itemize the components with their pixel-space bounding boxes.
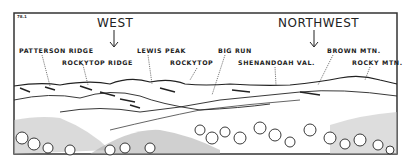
label-patterson-ridge: PATTERSON RIDGE bbox=[19, 47, 94, 54]
direction-northwest: NORTHWEST bbox=[278, 16, 359, 30]
label-brown-mtn: BROWN MTN. bbox=[327, 47, 381, 54]
label-big-run: BIG RUN bbox=[218, 47, 252, 54]
figure-number: 78.1 bbox=[17, 14, 27, 19]
label-rockytop: ROCKYTOP bbox=[170, 59, 213, 66]
label-lewis-peak: LEWIS PEAK bbox=[137, 47, 186, 54]
label-rockytop-ridge: ROCKYTOP RIDGE bbox=[62, 59, 133, 66]
label-shenandoah-val: SHENANDOAH VAL. bbox=[238, 59, 315, 66]
label-rocky-mtn: ROCKY MTN. bbox=[352, 59, 403, 66]
direction-west: WEST bbox=[97, 16, 133, 30]
